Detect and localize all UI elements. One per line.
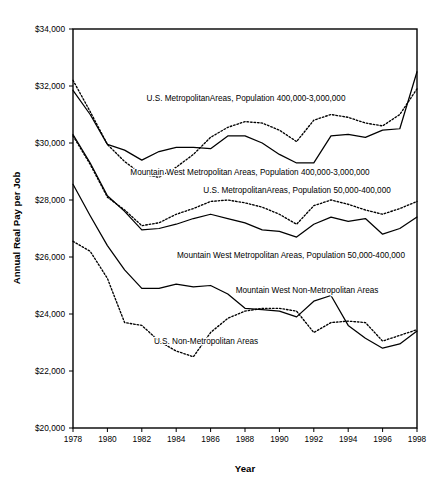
series-label-1: Mountain West Metropolitan Areas, Popula… [130, 168, 370, 177]
y-tick-label: $20,000 [35, 423, 65, 433]
x-tick-label: 1992 [305, 434, 324, 444]
x-tick-label: 1994 [339, 434, 358, 444]
line-chart: $20,000$22,000$24,000$26,000$28,000$30,0… [0, 0, 433, 481]
series-label-0: U.S. MetropolitanAreas, Population 400,0… [147, 94, 346, 103]
x-tick-label: 1986 [201, 434, 220, 444]
series-label-2: U.S. MetropolitanAreas, Population 50,00… [203, 186, 391, 195]
x-tick-label: 1980 [98, 434, 117, 444]
y-tick-label: $28,000 [35, 195, 65, 205]
x-tick-label: 1982 [133, 434, 152, 444]
series-label-4: Mountain West Non-Metropolitan Areas [236, 286, 379, 295]
x-tick-label: 1996 [373, 434, 392, 444]
chart-background [0, 0, 433, 481]
y-axis-title: Annual Real Pay per Job [11, 172, 22, 285]
x-tick-label: 1988 [236, 434, 255, 444]
series-label-5: U.S. Non-Metropolitan Areas [154, 337, 258, 346]
y-tick-label: $32,000 [35, 81, 65, 91]
x-tick-label: 1984 [167, 434, 186, 444]
y-tick-label: $26,000 [35, 252, 65, 262]
x-tick-label: 1978 [64, 434, 83, 444]
y-tick-label: $34,000 [35, 24, 65, 34]
y-tick-label: $24,000 [35, 309, 65, 319]
x-axis-title: Year [235, 463, 256, 474]
y-tick-label: $22,000 [35, 366, 65, 376]
y-tick-label: $30,000 [35, 138, 65, 148]
x-tick-label: 1990 [270, 434, 289, 444]
x-tick-label: 1998 [408, 434, 427, 444]
chart-container: $20,000$22,000$24,000$26,000$28,000$30,0… [0, 0, 433, 481]
series-label-3: Mountain West Metropolitan Areas, Popula… [177, 251, 405, 260]
